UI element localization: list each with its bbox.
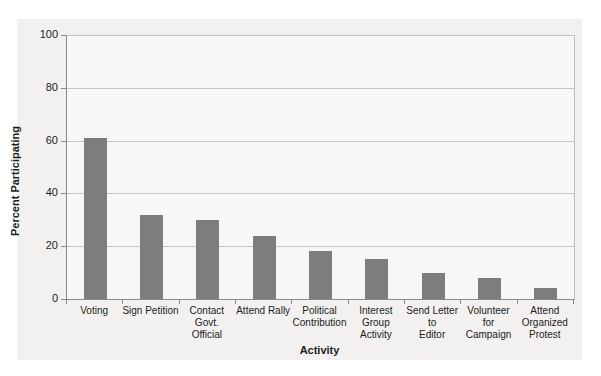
x-tick-mark-9 [573, 300, 574, 304]
chart-figure: Percent Participating Activity 020406080… [17, 19, 582, 360]
bar-political-contribution [309, 251, 332, 299]
bar-volunteer-for-campaign [478, 278, 501, 299]
y-tick-mark-100 [61, 35, 66, 36]
plot-area [66, 35, 575, 300]
bar-attend-organized-protest [534, 288, 557, 299]
y-axis-title: Percent Participating [9, 86, 23, 276]
bar-send-letter-to-editor [422, 273, 445, 299]
x-tick-mark-1 [122, 300, 123, 304]
y-tick-label-20: 20 [24, 239, 58, 252]
bar-sign-petition [140, 215, 163, 299]
gridline-80 [67, 88, 574, 89]
x-tick-mark-2 [179, 300, 180, 304]
y-tick-mark-40 [61, 193, 66, 194]
gridline-40 [67, 193, 574, 194]
y-tick-mark-80 [61, 88, 66, 89]
x-tick-mark-6 [404, 300, 405, 304]
x-tick-mark-0 [66, 300, 67, 304]
x-tick-mark-8 [517, 300, 518, 304]
y-tick-mark-20 [61, 246, 66, 247]
x-tick-mark-7 [460, 300, 461, 304]
x-axis-title: Activity [66, 344, 573, 356]
x-tick-mark-3 [235, 300, 236, 304]
x-tick-mark-5 [348, 300, 349, 304]
y-tick-label-80: 80 [24, 81, 58, 94]
bar-contact-govt-official [196, 220, 219, 299]
y-tick-label-100: 100 [24, 28, 58, 41]
x-tick-mark-4 [291, 300, 292, 304]
y-tick-mark-60 [61, 141, 66, 142]
gridline-60 [67, 141, 574, 142]
gridline-100 [67, 35, 574, 36]
bar-voting [84, 138, 107, 299]
bar-attend-rally [253, 236, 276, 299]
y-tick-label-40: 40 [24, 186, 58, 199]
y-tick-label-60: 60 [24, 134, 58, 147]
bar-interest-group-activity [365, 259, 388, 299]
y-tick-label-0: 0 [24, 292, 58, 305]
x-category-label-attend-organized-protest: AttendOrganizedProtest [512, 305, 578, 341]
